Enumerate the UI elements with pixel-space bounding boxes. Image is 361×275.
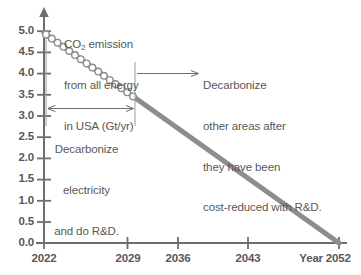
y-axis-arrowhead <box>39 7 49 17</box>
phase2-callout-line-3: they have been <box>203 161 322 175</box>
y-tick-label-1-5: 1.5 <box>0 172 34 186</box>
y-axis-title-line-2: from all energy <box>64 79 139 93</box>
x-tick-label-2052: Year 2052 <box>292 252 358 266</box>
phase2-callout: Decarbonize other areas after they have … <box>203 52 322 242</box>
phase1-callout-line-3: and do R&D. <box>34 225 139 239</box>
y-tick-label-0-0: 0.0 <box>0 236 34 250</box>
x-tick-label-2036: 2036 <box>148 252 208 266</box>
phase2-callout-line-4: cost-reduced with R&D. <box>203 201 322 215</box>
y-tick-label-1-0: 1.0 <box>0 194 34 208</box>
y-tick-label-3-0: 3.0 <box>0 109 34 123</box>
y-tick-label-3-5: 3.5 <box>0 88 34 102</box>
y-axis-title-co: CO <box>64 38 81 50</box>
y-tick-label-2-0: 2.0 <box>0 151 34 165</box>
y-tick-label-2-5: 2.5 <box>0 130 34 144</box>
phase1-callout-line-2: electricity <box>34 184 139 198</box>
y-tick-label-0-5: 0.5 <box>0 215 34 229</box>
y-tick-label-4-0: 4.0 <box>0 66 34 80</box>
y-tick-label-5-0: 5.0 <box>0 24 34 38</box>
phase2-callout-line-1: Decarbonize <box>203 79 322 93</box>
phase1-callout: Decarbonize electricity and do R&D. <box>34 116 139 265</box>
y-axis-title-subscript: 2 <box>81 43 85 52</box>
phase1-callout-line-1: Decarbonize <box>34 143 139 157</box>
phase2-callout-line-2: other areas after <box>203 120 322 134</box>
co2-emission-chart: 5.0 4.5 4.0 3.5 3.0 2.5 2.0 1.5 1.0 0.5 … <box>0 0 361 275</box>
y-axis-title-emission: emission <box>85 38 133 50</box>
x-tick-label-2043: 2043 <box>218 252 278 266</box>
y-tick-label-4-5: 4.5 <box>0 45 34 59</box>
y-axis-title-line-1: CO2 emission <box>64 38 139 52</box>
